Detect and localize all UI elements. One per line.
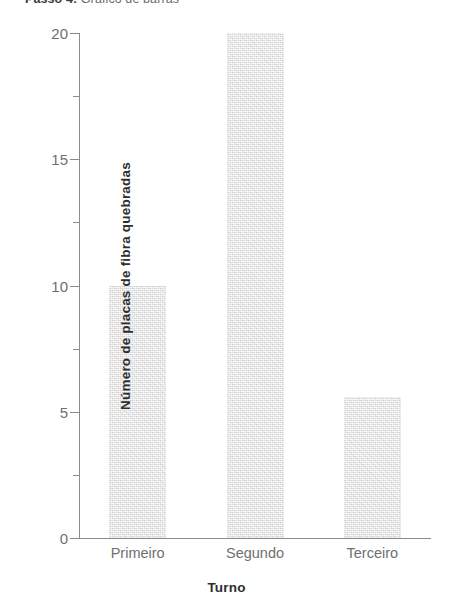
bar-chart: 05101520 PrimeiroSegundoTerceiro Número … — [0, 0, 453, 611]
y-axis-minor-tick — [73, 349, 79, 350]
y-axis-tick-label: 0 — [60, 530, 68, 547]
y-axis-tick-label: 10 — [51, 277, 68, 294]
y-axis-major-tick — [70, 33, 79, 34]
y-axis-line — [79, 33, 80, 539]
y-axis-tick-label: 5 — [60, 403, 68, 420]
y-axis-tick-label: 15 — [51, 151, 68, 168]
y-axis-title: Número de placas de fibra quebradas — [118, 162, 133, 410]
x-axis-tick-label: Primeiro — [111, 545, 165, 561]
y-axis-minor-tick — [73, 222, 79, 223]
x-axis-title: Turno — [0, 580, 453, 595]
y-axis-tick-label: 20 — [51, 25, 68, 42]
bar — [227, 33, 284, 538]
x-axis-tick-label: Terceiro — [347, 545, 399, 561]
y-axis-major-tick — [70, 159, 79, 160]
y-axis-major-tick — [70, 538, 79, 539]
y-axis-major-tick — [70, 412, 79, 413]
x-axis-tick-label: Segundo — [226, 545, 284, 561]
y-axis-minor-tick — [73, 96, 79, 97]
x-axis-line — [79, 538, 431, 539]
y-axis-major-tick — [70, 286, 79, 287]
y-axis-minor-tick — [73, 475, 79, 476]
bar — [344, 397, 401, 538]
